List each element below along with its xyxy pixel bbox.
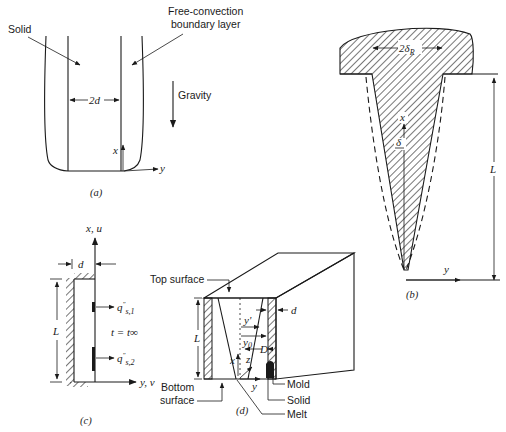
boundary-layer-right-curve <box>124 36 143 171</box>
solid-label: Solid <box>8 23 32 35</box>
box-side-face <box>276 253 354 379</box>
wall-bottom-hatch <box>70 382 88 387</box>
heater-segment-2 <box>92 347 95 371</box>
y-axis-label: y <box>251 380 257 392</box>
z-axis-arrow <box>240 367 252 378</box>
D-label: D <box>259 343 268 355</box>
bottom-surface-pointer <box>197 383 222 401</box>
bottom-surface-label-2: surface <box>160 394 195 406</box>
top-surface-pointer <box>207 280 229 292</box>
panel-d: L d y' y0 D x z y Top surface Bottom sur… <box>150 253 354 420</box>
solid-label: Solid <box>287 394 311 406</box>
x-axis-label: x <box>112 144 118 156</box>
wall-hatch <box>66 278 74 386</box>
top-surface-label: Top surface <box>150 273 204 285</box>
boundary-layer-label-2: boundary layer <box>171 18 241 30</box>
solid-pointer <box>28 37 80 65</box>
boundary-layer-pointer <box>132 34 183 65</box>
panel-a: 2d x y Solid Free-convection boundary la… <box>8 5 243 199</box>
figure-canvas: 2d x y Solid Free-convection boundary la… <box>0 0 506 432</box>
y0-label: y0 <box>242 336 252 350</box>
length-label: L <box>193 332 200 344</box>
panel-c: x, u y, v d L q″s,1 q″s,2 t = t∞ (c) <box>50 222 155 427</box>
panel-a-caption: (a) <box>90 187 103 199</box>
gravity-label: Gravity <box>178 89 212 101</box>
ambient-label: t = t∞ <box>111 326 138 338</box>
wall-top-hatch <box>74 273 94 279</box>
panel-b: 2δR x δ L y (b) <box>340 28 500 301</box>
width-label: 2d <box>89 94 101 106</box>
melt-label: Melt <box>287 408 307 420</box>
heater-segment-1 <box>92 302 95 312</box>
thickness-label: d <box>291 304 297 316</box>
x-axis-label: x, u <box>85 222 102 234</box>
mold-label: Mold <box>287 378 310 390</box>
panel-b-caption: (b) <box>406 289 419 301</box>
length-label: L <box>489 163 496 175</box>
y-axis-label: y, v <box>139 376 155 388</box>
z-axis-label: z <box>245 353 251 365</box>
x-axis-label: x <box>399 111 405 123</box>
mold-wall-left <box>204 298 212 379</box>
panel-d-caption: (d) <box>236 405 249 417</box>
solid-front-left <box>218 298 236 379</box>
flux-1-label: q″s,1 <box>117 300 135 316</box>
y-axis-label: y <box>159 162 165 174</box>
panel-c-caption: (c) <box>80 415 92 427</box>
y-axis-label: y <box>443 263 449 275</box>
x-axis-label: x <box>229 354 235 366</box>
flux-2-label: q″s,2 <box>117 351 135 367</box>
delta-label: δ <box>396 136 402 148</box>
length-label: L <box>52 325 59 337</box>
bottom-surface-label-1: Bottom <box>161 381 195 393</box>
box-top-face <box>204 253 354 298</box>
boundary-layer-label-1: Free-convection <box>168 5 243 17</box>
y-prime-label: y' <box>243 314 252 326</box>
solidified-shell <box>340 28 473 270</box>
thickness-label: d <box>78 258 84 270</box>
